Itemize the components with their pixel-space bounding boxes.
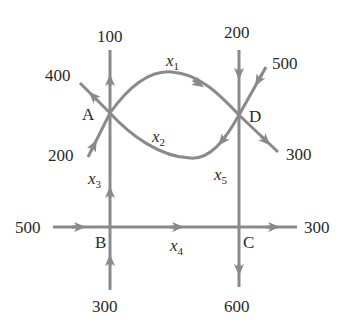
flow-value-d-in-top: 200 xyxy=(224,23,250,42)
var-label-x2: x2 xyxy=(151,127,165,148)
flow-network-diagram: A B C D x1 x2 x3 x4 x5 100 400 200 200 5… xyxy=(0,0,349,333)
var-label-x5: x5 xyxy=(213,165,228,186)
flow-value-c-out-bottom: 600 xyxy=(224,297,250,316)
var-label-x3: x3 xyxy=(87,169,102,190)
var-label-x4: x4 xyxy=(169,236,184,257)
edge-x1 xyxy=(110,72,239,115)
flow-value-c-out-right: 300 xyxy=(304,218,330,237)
flow-value-a-in-lowleft: 200 xyxy=(48,146,74,165)
flow-value-b-in-left: 500 xyxy=(15,218,41,237)
flow-value-d-out-lowright: 300 xyxy=(286,145,312,164)
flow-value-b-in-bottom: 300 xyxy=(92,297,118,316)
flow-value-d-in-upright: 500 xyxy=(272,54,298,73)
var-label-x1: x1 xyxy=(165,51,179,72)
node-label-d: D xyxy=(249,107,261,126)
node-label-b: B xyxy=(95,233,106,252)
flow-value-a-out-top: 100 xyxy=(97,27,123,46)
node-label-a: A xyxy=(82,105,95,124)
flow-value-a-out-upleft: 400 xyxy=(45,66,71,85)
edge-x2 xyxy=(110,113,239,158)
node-label-c: C xyxy=(243,233,254,252)
